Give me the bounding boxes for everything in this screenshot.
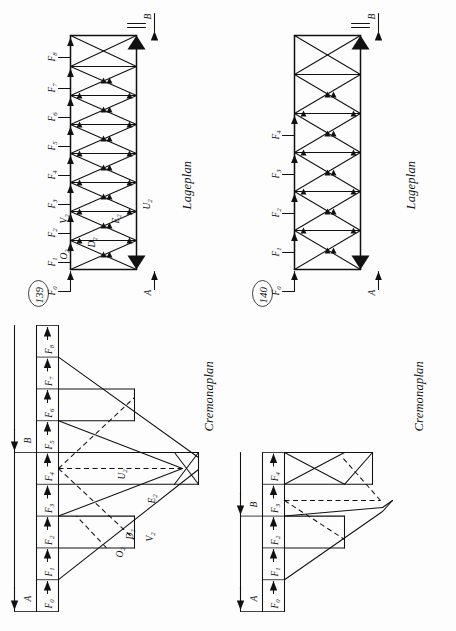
load-label-D2: D2 <box>86 236 97 248</box>
reaction-dimension-A-140: A <box>240 516 262 611</box>
reaction-dimension-A-139: A <box>14 452 36 611</box>
plate-rotated: F0 F1 F2 F3 F4 F5 F6 F7 F8 A B <box>0 0 456 631</box>
reaction-dimension-B-139: B <box>14 325 32 452</box>
load-label-F0: F0 <box>43 598 54 609</box>
load-label-U2: U2 <box>116 468 127 479</box>
load-label-F2: F2 <box>46 227 57 238</box>
load-label-F1: F1 <box>43 567 54 577</box>
load-label-F4: F4 <box>269 471 280 482</box>
figure-140-lageplan: 140 <box>238 9 444 309</box>
figure-139-lageplan: 139 <box>14 9 226 309</box>
cremona-polygon-140 <box>284 452 392 579</box>
load-label-F3: F3 <box>269 503 280 514</box>
load-label-F4: F4 <box>43 471 54 482</box>
load-label-F2: F2 <box>270 207 281 218</box>
reaction-dimension-B-140: B <box>240 452 258 516</box>
load-label-F5: F5 <box>46 140 57 151</box>
load-label-F7: F7 <box>43 376 54 387</box>
load-label-F4: F4 <box>46 169 57 180</box>
load-label-F4: F4 <box>270 129 281 140</box>
svg-text:A: A <box>366 289 376 296</box>
caption-cremonaplan-140: Cremonaplan <box>411 361 425 432</box>
applied-loads-140 <box>282 115 294 291</box>
load-label-F7: F7 <box>46 82 57 93</box>
load-label-F8: F8 <box>43 344 54 355</box>
load-label-V2: V2 <box>144 531 155 541</box>
load-label-O2: O2 <box>58 248 69 259</box>
load-label-F8: F8 <box>46 51 57 62</box>
support-A-140: A <box>351 255 378 296</box>
figure-140-cremonaplan: F0 F1 F2 F3 F4 A B <box>232 317 442 617</box>
cremona-polygon-139 <box>58 357 198 580</box>
svg-text:B: B <box>366 13 376 19</box>
load-label-F0: F0 <box>270 285 281 296</box>
figure-number-140: 140 <box>256 286 268 303</box>
load-label-F5: F5 <box>43 439 54 450</box>
load-label-F1: F1 <box>270 247 281 257</box>
svg-text:A: A <box>142 289 152 296</box>
force-line-labels-140: F0 F1 F2 F3 F4 <box>269 471 280 609</box>
support-B-139: B <box>127 13 154 49</box>
load-label-F2: F2 <box>269 535 280 546</box>
load-label-F2: F2 <box>43 535 54 546</box>
load-label-F1: F1 <box>269 567 280 577</box>
applied-load-labels-139: F0 F1 F2 F3 F4 F5 F6 F7 F8 <box>46 51 57 296</box>
member-labels-139-cremona: O2 D2 V2 E2 U2 <box>114 468 157 557</box>
load-label-U2: U2 <box>141 198 152 209</box>
load-label-F3: F3 <box>43 503 54 514</box>
svg-text:A: A <box>248 595 258 602</box>
svg-text:B: B <box>142 13 152 19</box>
load-label-V2: V2 <box>58 213 69 223</box>
page-root: F0 F1 F2 F3 F4 F5 F6 F7 F8 A B <box>0 0 456 631</box>
member-labels-139-lageplan: O2 D2 V2 E2 U2 <box>58 198 152 259</box>
figure-number-139: 139 <box>32 286 44 303</box>
support-A-139: A <box>127 255 154 296</box>
member-force-arrows-139 <box>76 77 132 257</box>
caption-lageplan-140: Lageplan <box>403 160 417 210</box>
member-force-arrows-140 <box>300 91 356 253</box>
load-label-F0: F0 <box>269 598 280 609</box>
load-label-F1: F1 <box>46 257 57 267</box>
svg-text:B: B <box>22 437 32 443</box>
load-label-F3: F3 <box>46 198 57 209</box>
load-label-F3: F3 <box>270 168 281 179</box>
force-line-labels-139: F0 F1 F2 F3 F4 F5 F6 F7 F8 <box>43 344 54 609</box>
applied-load-labels-140: F0 F1 F2 F3 F4 <box>270 129 281 296</box>
svg-text:A: A <box>22 595 32 602</box>
load-label-F6: F6 <box>46 111 57 122</box>
caption-lageplan-139: Lageplan <box>179 160 193 210</box>
load-label-E2: E2 <box>146 493 157 504</box>
support-B-140: B <box>351 13 378 49</box>
caption-cremonaplan-139: Cremonaplan <box>201 361 215 432</box>
figure-139-cremonaplan: F0 F1 F2 F3 F4 F5 F6 F7 F8 A B <box>6 317 231 617</box>
svg-text:B: B <box>248 501 258 507</box>
load-label-D2: D2 <box>124 528 135 540</box>
load-label-F6: F6 <box>43 407 54 418</box>
load-label-E2: E2 <box>110 213 121 224</box>
load-label-F0: F0 <box>46 285 57 296</box>
